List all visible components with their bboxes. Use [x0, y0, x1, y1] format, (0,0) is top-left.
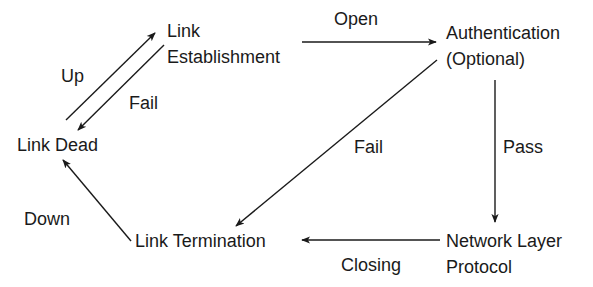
edge-label-open: Open: [334, 6, 378, 32]
edge-label-fail-establishment: Fail: [129, 90, 158, 116]
down-arrow: [63, 160, 131, 241]
node-authentication-line1: Authentication: [446, 20, 560, 46]
fail-auth-arrow: [236, 60, 437, 226]
edge-label-pass: Pass: [503, 134, 543, 160]
node-link-termination-text: Link Termination: [135, 228, 266, 254]
node-link-dead: Link Dead: [17, 132, 98, 158]
edge-label-closing: Closing: [341, 252, 401, 278]
node-authentication: Authentication (Optional): [446, 20, 560, 72]
node-network-layer-protocol-line2: Protocol: [446, 254, 562, 280]
node-link-dead-text: Link Dead: [17, 132, 98, 158]
node-link-termination: Link Termination: [135, 228, 266, 254]
node-network-layer-protocol-line1: Network Layer: [446, 228, 562, 254]
edge-label-fail-auth: Fail: [354, 134, 383, 160]
node-link-establishment-line1: Link: [167, 18, 280, 44]
fail-establishment-arrow: [78, 45, 164, 130]
node-network-layer-protocol: Network Layer Protocol: [446, 228, 562, 280]
ppp-phase-diagram: Link Establishment Authentication (Optio…: [0, 0, 593, 287]
node-link-establishment: Link Establishment: [167, 18, 280, 70]
node-link-establishment-line2: Establishment: [167, 44, 280, 70]
edge-label-up: Up: [61, 63, 84, 89]
edge-label-down: Down: [24, 206, 70, 232]
node-authentication-line2: (Optional): [446, 46, 560, 72]
